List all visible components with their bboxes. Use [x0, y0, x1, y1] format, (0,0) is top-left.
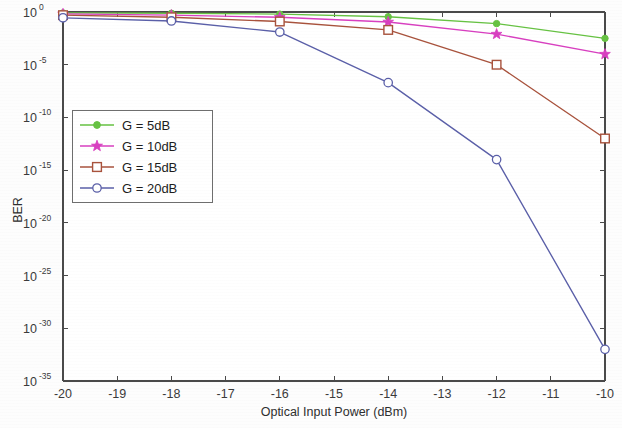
legend-circle-icon [93, 184, 101, 192]
y-tick-label: 10-15 [23, 160, 51, 178]
y-tick-exponent: -5 [39, 55, 47, 65]
circle-marker [59, 14, 67, 22]
data-point-marker [492, 60, 501, 69]
x-tick-label: -14 [379, 387, 397, 401]
x-tick-label: -12 [488, 387, 506, 401]
x-axis-label: Optical Input Power (dBm) [261, 405, 408, 419]
circle-marker [276, 28, 284, 36]
data-point-marker [492, 155, 500, 163]
y-axis-tick-labels: 10010-510-1010-1510-2010-2510-3010-35 [23, 2, 51, 389]
circle-marker [167, 17, 175, 25]
x-tick-label: -16 [271, 387, 289, 401]
circle-marker [492, 155, 500, 163]
y-tick-exponent: -10 [39, 107, 52, 117]
y-tick-mantissa: 10 [23, 270, 37, 284]
data-point-marker [384, 78, 392, 86]
x-tick-label: -17 [217, 387, 235, 401]
y-tick-exponent: -25 [39, 266, 52, 276]
x-tick-label: -20 [54, 387, 72, 401]
y-axis-label: BER [11, 197, 25, 223]
x-tick-label: -11 [542, 387, 559, 401]
data-point-marker [601, 134, 610, 143]
x-tick-label: -13 [433, 387, 451, 401]
x-tick-label: -19 [108, 387, 126, 401]
y-tick-label: 10-25 [23, 266, 51, 284]
x-tick-label: -15 [325, 387, 343, 401]
square-marker [384, 26, 393, 35]
y-tick-mantissa: 10 [23, 217, 37, 231]
y-tick-mantissa: 10 [23, 322, 37, 336]
y-tick-exponent: -30 [39, 318, 52, 328]
x-axis-tick-labels: -20-19-18-17-16-15-14-13-12-11-10 [54, 387, 614, 401]
data-point-marker [493, 20, 499, 26]
square-marker [492, 60, 501, 69]
x-tick-label: -10 [596, 387, 614, 401]
y-tick-exponent: -15 [39, 160, 52, 170]
legend-dot-icon [94, 122, 101, 129]
data-point-marker [602, 35, 608, 41]
y-tick-label: 10-20 [23, 213, 51, 231]
legend-label: G = 5dB [122, 118, 170, 133]
x-tick-label: -18 [162, 387, 180, 401]
circle-marker [384, 78, 392, 86]
data-point-marker [276, 17, 285, 26]
y-tick-label: 100 [23, 2, 44, 20]
y-tick-exponent: 0 [39, 2, 44, 12]
y-tick-mantissa: 10 [23, 111, 37, 125]
y-tick-exponent: -35 [39, 371, 52, 381]
y-tick-mantissa: 10 [23, 6, 37, 20]
legend-label: G = 15dB [122, 160, 177, 175]
y-tick-mantissa: 10 [23, 59, 37, 73]
ber-vs-optical-input-power-chart: -20-19-18-17-16-15-14-13-12-11-10 10010-… [0, 0, 622, 428]
y-tick-label: 10-10 [23, 107, 51, 125]
y-tick-mantissa: 10 [23, 164, 37, 178]
legend-label: G = 20dB [122, 181, 177, 196]
y-tick-exponent: -20 [39, 213, 52, 223]
dot-marker [602, 35, 608, 41]
data-point-marker [384, 26, 393, 35]
y-tick-label: 10-30 [23, 318, 51, 336]
square-marker [276, 17, 285, 26]
y-tick-mantissa: 10 [23, 375, 37, 389]
square-marker [601, 134, 610, 143]
chart-legend: G = 5dBG = 10dBG = 15dBG = 20dB [72, 110, 212, 202]
data-point-marker [276, 28, 284, 36]
y-tick-label: 10-5 [23, 55, 47, 73]
y-tick-label: 10-35 [23, 371, 51, 389]
figure-canvas: -20-19-18-17-16-15-14-13-12-11-10 10010-… [0, 0, 622, 428]
data-point-marker [59, 14, 67, 22]
data-point-marker [601, 345, 609, 353]
legend-square-icon [93, 163, 102, 172]
circle-marker [601, 345, 609, 353]
dot-marker [493, 20, 499, 26]
data-point-marker [167, 17, 175, 25]
legend-label: G = 10dB [122, 139, 177, 154]
